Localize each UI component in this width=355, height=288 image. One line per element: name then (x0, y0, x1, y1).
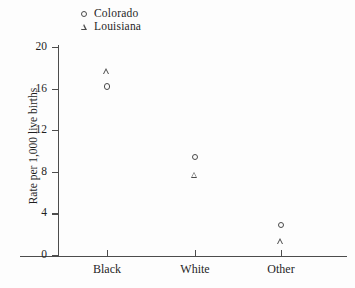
y-tick-label-4: 4 (7, 207, 47, 219)
y-tick-20 (52, 47, 58, 48)
y-tick-12 (52, 130, 58, 131)
scatter-chart: Colorado Louisiana Rate per 1,000 live b… (0, 0, 355, 288)
y-axis-line (58, 45, 59, 257)
y-tick-label-0: 0 (7, 249, 47, 261)
x-tick-label-black: Black (67, 262, 147, 276)
y-tick-16 (52, 89, 58, 90)
x-tick-white (195, 250, 196, 256)
x-tick-black (107, 250, 108, 256)
y-tick-8 (52, 172, 58, 173)
y-tick-label-16: 16 (7, 83, 47, 95)
y-tick-4 (52, 213, 58, 214)
x-tick-other (281, 250, 282, 256)
y-tick-label-20: 20 (7, 41, 47, 53)
x-tick-label-other: Other (241, 262, 321, 276)
x-axis-line (20, 256, 347, 257)
y-tick-label-12: 12 (7, 124, 47, 136)
x-tick-label-white: White (155, 262, 235, 276)
y-tick-label-8: 8 (7, 166, 47, 178)
plot-area: Rate per 1,000 live births 20 16 12 8 4 … (0, 0, 355, 288)
y-tick-0 (52, 255, 58, 256)
